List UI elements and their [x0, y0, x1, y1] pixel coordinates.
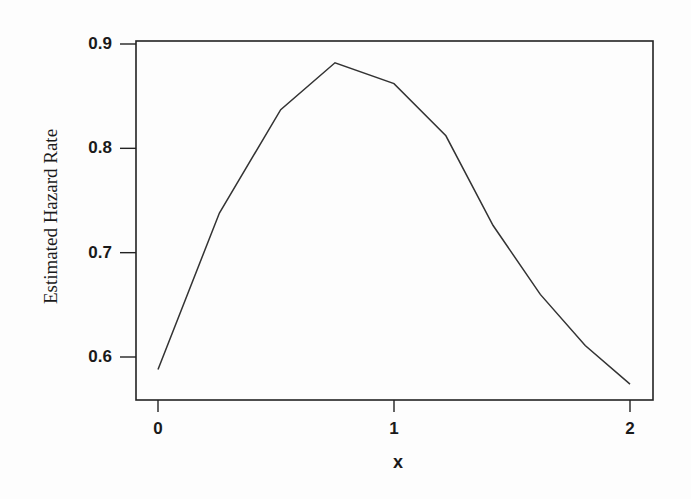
y-tick-label: 0.6 — [72, 348, 112, 365]
hazard-rate-chart: 0.60.70.80.9 012 Estimated Hazard Rate x — [0, 0, 691, 499]
y-tick-label: 0.9 — [72, 35, 112, 52]
hazard-rate-line — [158, 63, 630, 384]
x-tick-label: 0 — [143, 420, 173, 437]
plot-frame — [136, 41, 653, 400]
y-axis-title: Estimated Hazard Rate — [41, 97, 60, 337]
y-tick-label: 0.8 — [72, 139, 112, 156]
x-tick-label: 2 — [615, 420, 645, 437]
x-tick-label: 1 — [379, 420, 409, 437]
y-tick-label: 0.7 — [72, 244, 112, 261]
x-axis-title: x — [383, 453, 413, 471]
